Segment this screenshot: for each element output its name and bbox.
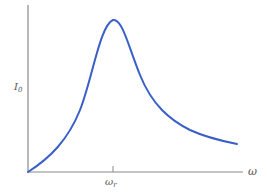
x-axis-label: ω: [248, 166, 257, 177]
x-axis-label-text: ω: [248, 165, 257, 178]
resonance-tick-label: ωr: [105, 177, 117, 189]
y-axis-label-subscript: 0: [18, 86, 22, 94]
resonance-tick-label-subscript: r: [113, 181, 116, 189]
y-axis-label: I0: [14, 82, 22, 94]
resonance-tick-label-main: ω: [105, 176, 113, 187]
resonance-curve: [28, 20, 237, 172]
resonance-plot: [0, 0, 267, 193]
